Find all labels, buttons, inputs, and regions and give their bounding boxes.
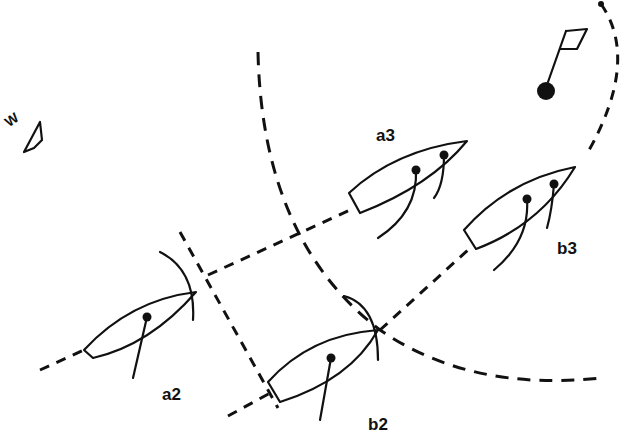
wind-label: W — [1, 109, 22, 130]
boat-a3: a3 — [349, 126, 467, 238]
sailing-diagram: W a2 a3 b2 — [0, 0, 635, 444]
boat-label-a3: a3 — [376, 126, 395, 145]
boat-b3: b3 — [464, 167, 577, 270]
b-track — [228, 392, 272, 416]
overlap-line-left — [180, 232, 278, 408]
mark-rounding-path — [588, 4, 618, 152]
boat-label-a2: a2 — [162, 385, 181, 404]
a-track — [40, 350, 84, 370]
boat-a2: a2 — [84, 252, 196, 404]
boat-label-b2: b2 — [368, 415, 388, 434]
boat-label-b3: b3 — [557, 239, 577, 258]
flag-mark-icon — [537, 29, 587, 100]
boat-b2: b2 — [268, 296, 388, 434]
wind-arrow-icon: W — [1, 109, 42, 152]
